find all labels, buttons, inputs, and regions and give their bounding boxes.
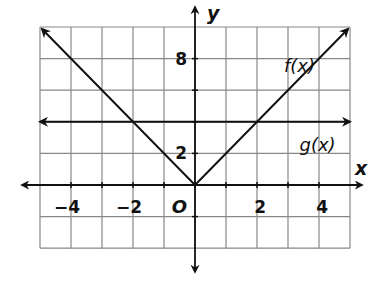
y-tick-label: 8 (175, 49, 187, 69)
f-label: f(x) (284, 55, 315, 76)
x-tick-label: 4 (316, 197, 328, 217)
y-axis-label: y (207, 2, 221, 24)
y-tick-label: 2 (175, 143, 187, 163)
coordinate-plane: f(x)g(x) −4−22482Oxy (0, 0, 384, 289)
x-tick-label: 2 (254, 197, 266, 217)
x-axis-label: x (354, 157, 368, 179)
x-tick-label: −4 (54, 197, 80, 217)
x-tick-label: −2 (116, 197, 142, 217)
origin-label: O (172, 196, 187, 217)
g-label: g(x) (300, 134, 336, 155)
